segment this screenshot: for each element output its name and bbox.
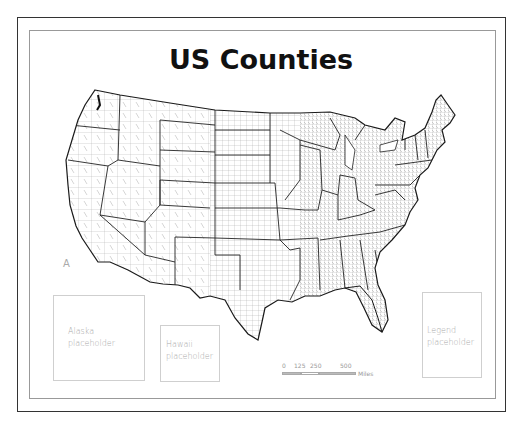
- hawaii-placeholder-line1: Hawaii: [166, 339, 193, 351]
- scale-tick-500: 500: [340, 362, 351, 369]
- alaska-placeholder: Alaska placeholder: [53, 295, 145, 381]
- scale-segment-1: [282, 372, 301, 375]
- scale-segment-2: [301, 372, 319, 375]
- scale-bar: 0 125 250 500 Miles: [280, 362, 390, 382]
- legend-placeholder-line1: Legend: [427, 325, 456, 337]
- scale-unit-label: Miles: [358, 370, 373, 377]
- north-arrow-icon: A: [63, 258, 70, 269]
- hawaii-placeholder-line2: placeholder: [166, 351, 213, 363]
- alaska-placeholder-line1: Alaska: [68, 326, 94, 338]
- map-title: US Counties: [0, 44, 522, 75]
- legend-placeholder-line2: placeholder: [427, 337, 474, 349]
- alaska-placeholder-line2: placeholder: [68, 338, 115, 350]
- scale-tick-0: 0: [282, 362, 286, 369]
- scale-segment-3: [319, 372, 356, 375]
- scale-tick-250: 250: [310, 362, 321, 369]
- hawaii-placeholder: Hawaii placeholder: [160, 325, 220, 382]
- scale-tick-125: 125: [294, 362, 305, 369]
- legend-placeholder: Legend placeholder: [422, 292, 482, 378]
